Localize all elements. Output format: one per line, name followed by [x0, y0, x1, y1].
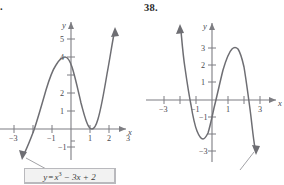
- y-tick-label: −1: [58, 143, 67, 152]
- curve-right: [176, 24, 260, 155]
- x-tick-label: −1: [47, 134, 56, 143]
- x-tick-label: −3: [9, 134, 18, 143]
- y-tick-label: 1: [60, 107, 64, 116]
- x-axis-right: [146, 96, 276, 104]
- x-tick-label: −3: [159, 105, 168, 114]
- graph-left: −3 −1 1 2 3 5 4 2 1 −1 x y: [0, 0, 142, 185]
- y-axis-left: [67, 22, 75, 160]
- x-tick-label: 1: [226, 105, 230, 114]
- y-tick-label: 5: [60, 35, 64, 44]
- y-tick-label: 1: [201, 78, 205, 87]
- x-tick-label: 2: [107, 134, 111, 143]
- x-axis-name: x: [127, 127, 132, 137]
- x-tick-label: 3: [258, 105, 262, 114]
- exercise-panel-left: .: [0, 0, 142, 185]
- y-tick-label: 3: [201, 44, 205, 53]
- y-axis-name: y: [61, 20, 66, 30]
- callout-leader-right: [240, 152, 254, 170]
- y-axis-name: y: [202, 21, 207, 31]
- x-tick-label: 1: [88, 134, 92, 143]
- y-tick-label: 2: [60, 89, 64, 98]
- axis-tick-labels-right: −3 −1 1 3 3 2 1 −1 −3 x y: [159, 21, 282, 156]
- equation-label-left: y=x3 − 3x + 2: [24, 168, 116, 184]
- y-tick-label: 2: [201, 61, 205, 70]
- equation-text-left: y=x3 − 3x + 2: [43, 170, 95, 182]
- y-axis-right: [208, 23, 216, 162]
- x-axis-name: x: [277, 98, 282, 108]
- figure-page: .: [0, 0, 284, 185]
- graph-right: −3 −1 1 3 3 2 1 −1 −3 x y: [142, 0, 284, 185]
- y-tick-label: −3: [199, 147, 208, 156]
- exercise-panel-right: 38.: [142, 0, 284, 185]
- y-tick-label: −1: [199, 113, 208, 122]
